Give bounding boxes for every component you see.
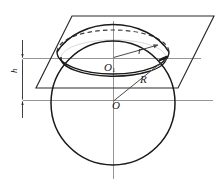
figure-canvas bbox=[0, 0, 224, 191]
cutting-plane-parallelogram bbox=[36, 16, 214, 88]
label-center-small-circle: O1 bbox=[104, 62, 115, 74]
label-center-small-circle-subscript: 1 bbox=[112, 66, 115, 73]
radius-r-arrow bbox=[114, 45, 159, 58]
label-center-sphere: O bbox=[112, 100, 120, 111]
geometry-figure: r R O1 O h bbox=[0, 0, 224, 191]
label-height: h bbox=[10, 69, 19, 74]
spherical-cap-outline bbox=[57, 25, 169, 52]
label-radius-large: R bbox=[140, 74, 147, 85]
label-radius-small: r bbox=[138, 45, 142, 56]
label-center-small-circle-letter: O bbox=[104, 61, 112, 73]
